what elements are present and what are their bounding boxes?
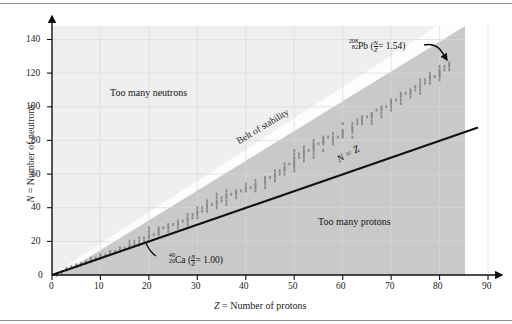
scatter-point [201,206,203,209]
scatter-point [284,173,286,176]
scatter-point [351,122,353,125]
scatter-point [414,85,416,88]
scatter-point [211,203,213,206]
scatter-point [303,159,305,162]
scatter-point [206,203,208,206]
scatter-point [419,88,421,91]
lead-atomic-number: 82 [352,43,358,50]
x-tick-label-80: 80 [433,281,443,291]
calcium-fraction-denominator: Z [191,261,195,268]
scatter-point [390,99,392,102]
scatter-point [240,189,242,192]
y-tick-label-140: 140 [26,34,40,44]
scatter-point [313,142,315,145]
scatter-point [424,82,426,85]
scatter-point [255,179,257,182]
y-axis-title: N = Number of neutrons [25,84,36,224]
scatter-point [376,109,378,112]
scatter-point [250,186,252,189]
scatter-point [371,119,373,122]
scatter-point [381,105,383,108]
scatter-point [313,152,315,155]
x-tick-label-10: 10 [94,281,104,291]
scatter-point [90,257,92,260]
plot-regions [52,26,488,275]
lead-fraction-numerator: N [374,40,378,47]
scatter-point [274,169,276,172]
calcium-nz-fraction: N Z [191,254,195,269]
scatter-point [163,226,165,229]
scatter-point [264,186,266,189]
scatter-point [322,149,324,152]
scatter-point [410,88,412,91]
scatter-point [196,210,198,213]
scatter-point [332,132,334,135]
scatter-point [206,199,208,202]
scatter-point [303,149,305,152]
scatter-point [288,162,290,165]
x-tick-label-20: 20 [142,281,152,291]
scatter-point [318,142,320,145]
scatter-point [298,152,300,155]
lead-fraction-denominator: Z [374,47,378,54]
scatter-point [308,149,310,152]
scatter-point [293,149,295,152]
scatter-point [385,105,387,108]
scatter-point [172,223,174,226]
scatter-point [226,193,228,196]
scatter-point [226,203,228,206]
lead-isotope-numbers: 208 82 [347,38,358,49]
scatter-point [390,109,392,112]
x-tick-label-0: 0 [49,281,54,291]
scatter-point [351,125,353,128]
scatter-point [216,206,218,209]
scatter-point [216,196,218,199]
calcium-symbol: Ca [175,255,186,265]
y-tick-label-20: 20 [31,236,41,246]
scatter-point [201,210,203,213]
scatter-point [284,162,286,165]
scatter-point [361,115,363,118]
scatter-point [119,247,121,250]
lead-ratio-value: = 1.54 [378,41,402,51]
y-tick-label-0: 0 [38,270,43,280]
scatter-point [245,183,247,186]
scatter-point [255,183,257,186]
figure-root: 0 10 20 30 40 50 60 70 80 90 0 20 40 60 … [0,0,512,324]
scatter-point [192,213,194,216]
scatter-point [177,220,179,223]
scatter-point [192,216,194,219]
x-axis-title: Z = Number of protons [214,300,306,311]
x-tick-label-70: 70 [385,281,395,291]
scatter-point [269,176,271,179]
calcium-isotope-numbers: 40 20 [164,252,175,263]
scatter-point [419,85,421,88]
scatter-point [400,99,402,102]
scatter-point [429,82,431,85]
lead-nz-fraction: N Z [374,40,378,55]
scatter-point [226,199,228,202]
y-axis-title-symbol: N [25,196,36,203]
scatter-point [187,216,189,219]
scatter-point [356,119,358,122]
scatter-point [444,68,446,71]
scatter-point [400,92,402,95]
scatter-point [143,236,145,239]
scatter-point [182,220,184,223]
scatter-point [129,240,131,243]
x-tick-label-60: 60 [336,281,346,291]
scatter-point [293,156,295,159]
scatter-point [419,78,421,81]
scatter-point [235,189,237,192]
scatter-point [148,230,150,233]
scatter-point [405,92,407,95]
calcium-fraction-numerator: N [191,254,195,261]
scatter-point [448,62,450,65]
scatter-point [342,129,344,132]
scatter-point [196,206,198,209]
scatter-point [439,68,441,71]
scatter-point [279,173,281,176]
scatter-point [100,253,102,256]
y-tick-label-120: 120 [26,68,40,78]
y-axis-ticks [47,40,52,242]
